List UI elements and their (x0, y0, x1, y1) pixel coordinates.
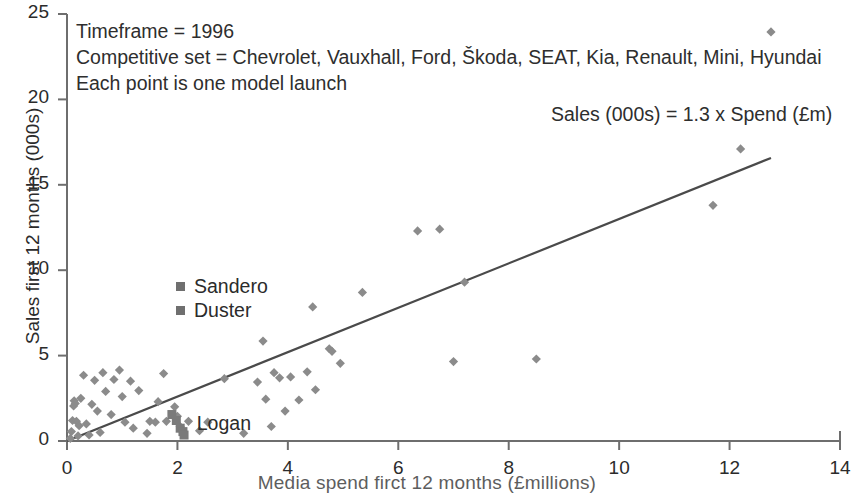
x-axis-title: Media spend firct 12 months (£millions) (0, 472, 854, 494)
annotation-line-point-meaning: Each point is one model launch (76, 70, 822, 96)
legend-label-duster: Duster (194, 298, 251, 322)
regression-equation-label: Sales (000s) = 1.3 x Spend (£m) (551, 103, 832, 126)
annotation-block: Timeframe = 1996 Competitive set = Chevr… (76, 18, 822, 96)
y-axis-title: Sales first 12 months (000s) (22, 76, 44, 376)
point-label-logan: Logan (197, 412, 251, 435)
y-tick-label: 0 (9, 428, 49, 450)
chart-legend: Sandero Duster (176, 274, 268, 322)
legend-swatch-icon (176, 306, 185, 315)
y-tick-label: 25 (9, 1, 49, 23)
trend-line (67, 158, 771, 441)
legend-swatch-icon (176, 282, 185, 291)
legend-label-sandero: Sandero (194, 274, 268, 298)
annotation-line-competitive-set: Competitive set = Chevrolet, Vauxhall, F… (76, 44, 822, 70)
legend-item-sandero: Sandero (176, 274, 268, 298)
legend-item-duster: Duster (176, 298, 268, 322)
scatter-chart: 0510152025 02468101214 Timeframe = 1996 … (0, 0, 854, 502)
annotation-line-timeframe: Timeframe = 1996 (76, 18, 822, 44)
